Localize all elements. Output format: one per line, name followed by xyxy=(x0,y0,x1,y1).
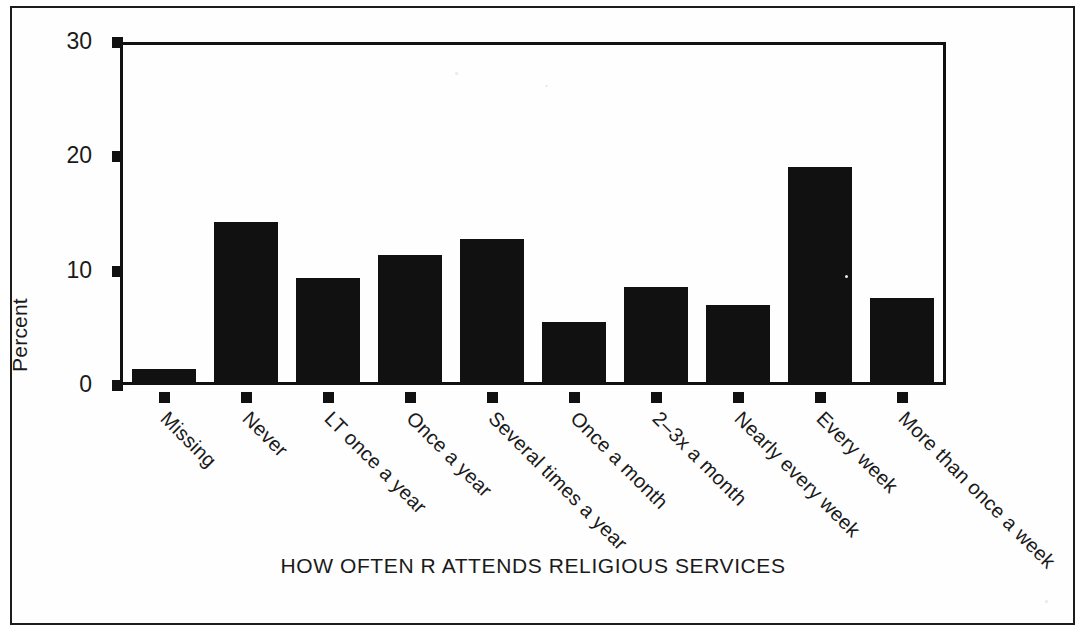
y-axis-title: Percent xyxy=(8,275,32,395)
bar xyxy=(460,239,524,385)
bar xyxy=(378,255,442,385)
bar xyxy=(870,298,934,385)
x-axis-tick-mark xyxy=(487,392,498,403)
x-axis-tick-mark xyxy=(241,392,252,403)
x-axis-tick-label: Several times a year xyxy=(484,407,632,555)
y-axis-tick-label: 20 xyxy=(66,142,92,169)
y-axis-tick-mark xyxy=(112,37,123,48)
y-axis-tick-mark xyxy=(112,380,123,391)
x-axis-tick-mark xyxy=(733,392,744,403)
bar xyxy=(788,167,852,385)
x-axis-tick-label: More than once a week xyxy=(894,407,1060,573)
bar xyxy=(132,369,196,385)
x-axis-tick-mark xyxy=(405,392,416,403)
x-axis-title: HOW OFTEN R ATTENDS RELIGIOUS SERVICES xyxy=(120,554,946,578)
bar-chart: Percent 0102030 MissingNeverLT once a ye… xyxy=(0,0,1082,640)
x-axis-tick-mark xyxy=(569,392,580,403)
x-axis-tick-label: Never xyxy=(238,407,293,462)
y-axis-tick-label: 0 xyxy=(79,371,92,398)
x-axis-tick-label: Every week xyxy=(812,407,903,498)
bar xyxy=(296,278,360,385)
x-axis-tick-mark xyxy=(651,392,662,403)
bar xyxy=(706,305,770,385)
x-axis-tick-mark xyxy=(897,392,908,403)
y-axis-tick-mark xyxy=(112,151,123,162)
y-axis-tick-mark xyxy=(112,266,123,277)
bar xyxy=(624,287,688,385)
x-axis-tick-mark xyxy=(159,392,170,403)
x-axis-tick-mark xyxy=(323,392,334,403)
y-axis-tick-label: 30 xyxy=(66,28,92,55)
bar xyxy=(542,322,606,385)
x-axis-tick-mark xyxy=(815,392,826,403)
scan-speckle xyxy=(1045,600,1048,603)
bars-layer xyxy=(123,42,943,385)
x-axis-tick-label: Missing xyxy=(156,407,221,472)
bar xyxy=(214,222,278,385)
y-axis-tick-label: 10 xyxy=(66,257,92,284)
